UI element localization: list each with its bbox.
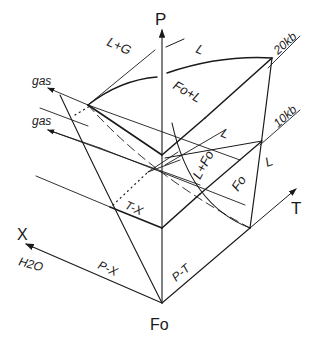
field-label-fo: Fo xyxy=(228,173,249,194)
phase-diagram: P T X H2O Fo P-X P-T T-X 20kb 10kb L+G L… xyxy=(0,0,320,344)
gas-label-lower: gas xyxy=(32,114,51,128)
lower-mid-line xyxy=(165,130,225,165)
x-axis-label: X xyxy=(17,226,28,243)
field-label-l-top: L xyxy=(194,41,207,58)
gas-line-upper xyxy=(88,105,240,160)
upper-l-curve xyxy=(167,58,272,73)
lg-boundary xyxy=(88,50,155,105)
upper-fo-l-line xyxy=(205,58,272,118)
pt-plane-label: P-T xyxy=(169,260,194,284)
base-parallel-line xyxy=(36,176,110,207)
pt-base-line xyxy=(162,228,250,303)
t-axis-line xyxy=(250,189,296,228)
gas-arrow-lower xyxy=(48,130,100,148)
pressure-10kb-label: 10kb xyxy=(271,102,300,130)
lower-tx-right xyxy=(162,194,200,228)
upper-tx-right xyxy=(162,118,205,155)
h2o-label: H2O xyxy=(17,254,44,274)
p-axis-label: P xyxy=(155,10,166,29)
field-label-fo-plus-l: Fo+L xyxy=(171,78,204,106)
field-label-l-plus-g: L+G xyxy=(105,34,134,58)
field-label-l-right: L xyxy=(263,153,275,170)
fo-origin-label: Fo xyxy=(150,316,169,333)
dashed-curve xyxy=(88,105,250,228)
gas-arrow-upper xyxy=(48,88,88,105)
x-axis-line xyxy=(26,244,162,303)
t-axis-label: T xyxy=(291,199,301,218)
dotted-upper-line xyxy=(75,106,90,115)
tx-plane-label: T-X xyxy=(123,198,146,219)
upper-lg-curve xyxy=(88,77,157,105)
field-label-l-mid: L xyxy=(219,125,232,142)
pressure-20kb-label: 20kb xyxy=(270,29,300,58)
gas-label-upper: gas xyxy=(32,74,51,88)
l-tick xyxy=(166,39,184,47)
